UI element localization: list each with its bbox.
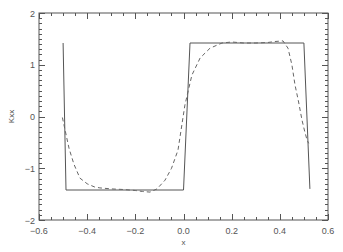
y-tick-label: 1 <box>30 60 35 70</box>
x-tick-label: 0.0 <box>177 226 190 236</box>
dashed-series-line <box>62 41 308 192</box>
y-tick-label: 2 <box>30 9 35 19</box>
y-axis-label: Kxx <box>7 110 16 123</box>
x-tick-label: −0.2 <box>126 226 144 236</box>
x-tick-label: 0.2 <box>225 226 238 236</box>
x-tick-label: 0.6 <box>322 226 335 236</box>
x-axis-label: x <box>182 238 186 247</box>
line-chart: −0.6−0.4−0.20.00.20.40.6 −2−1012 x Kxx <box>0 0 343 252</box>
series-layer <box>62 41 310 192</box>
solid-series-line <box>63 43 310 190</box>
y-tick-label: 0 <box>30 112 35 122</box>
x-tick-labels: −0.6−0.4−0.20.00.20.40.6 <box>30 226 334 236</box>
x-tick-label: −0.4 <box>78 226 96 236</box>
y-tick-label: −1 <box>25 164 35 174</box>
y-tick-label: −2 <box>25 216 35 226</box>
x-tick-label: −0.6 <box>30 226 48 236</box>
x-tick-label: 0.4 <box>274 226 287 236</box>
y-tick-labels: −2−1012 <box>25 9 35 226</box>
